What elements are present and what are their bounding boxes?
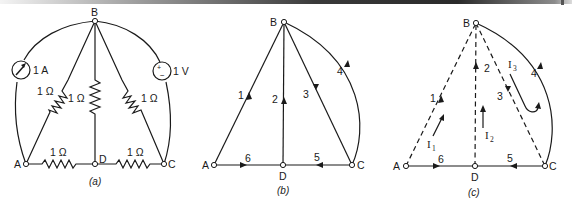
branch-4 [284,22,360,165]
circuit-figure: 1 A + − 1 V 1 Ω 1 Ω 1 Ω 1 Ω 1 Ω B A D C [0,0,572,205]
node-a [23,161,28,166]
branch-4-label: 4 [337,65,343,77]
node-a [403,163,408,168]
voltmeter-label: 1 V [173,65,189,77]
resistor-ad-label: 1 Ω [50,146,67,158]
node-c-label: C [549,160,557,172]
resistor-ab-label: 1 Ω [37,85,54,97]
branch-5-label: 5 [507,152,513,164]
resistor-dc-label: 1 Ω [127,146,144,158]
panel-c-graph: 1 2 3 4 5 6 I 1 I 2 I 3 B [393,17,557,198]
branch-1-label: 1 [238,89,244,101]
branch-3-label: 3 [303,88,309,100]
arrow-1-icon [438,95,444,103]
branch-2 [283,22,284,165]
branch-2-label: 2 [484,62,490,74]
ammeter-label: 1 A [33,64,48,76]
node-d [92,161,97,166]
node-a-label: A [202,159,209,171]
loop-current-i2: I 2 [480,105,494,144]
arrow-4-icon [344,60,350,67]
outer-wire-left-top [24,21,95,60]
branch-4-label: 4 [531,67,537,79]
node-b [281,19,286,24]
wire-a-d [26,160,95,168]
branch-5-label: 5 [314,151,320,163]
svg-text:I: I [485,129,489,141]
node-d-label: D [99,153,107,165]
node-c [349,162,354,167]
branch-4 [476,23,552,166]
node-b [92,18,97,23]
caption-b: (b) [277,185,289,196]
arrow-2-icon [473,62,479,69]
arrow-4-icon [537,62,543,69]
node-b-label: B [270,16,277,28]
node-a [211,162,216,167]
loop-current-i1: I 1 [427,114,444,153]
node-d-label: D [279,170,287,182]
arrow-2-icon [281,97,287,104]
outer-wire-left [15,82,26,164]
node-a-label: A [393,160,400,172]
node-c-label: C [357,159,365,171]
branch-1 [406,23,476,166]
resistor-bc-label: 1 Ω [141,92,158,104]
svg-text:1: 1 [432,144,436,153]
branch-2-label: 2 [272,93,278,105]
loop-i3-arrow-icon [535,102,541,109]
panel-b-graph: 1 2 3 4 5 6 B A D C (b) [202,16,365,196]
svg-text:2: 2 [490,135,494,144]
node-c-label: C [168,158,176,170]
ammeter [12,61,30,79]
branch-3-label: 3 [497,90,503,102]
caption-a: (a) [89,176,101,187]
svg-text:I: I [427,138,431,150]
panel-a-circuit: 1 A + − 1 V 1 Ω 1 Ω 1 Ω 1 Ω 1 Ω B A D C [12,6,189,187]
branch-6-label: 6 [438,153,444,165]
node-c [542,163,547,168]
outer-wire-right [164,82,170,164]
voltmeter: + − [153,62,171,80]
voltmeter-plus: + [157,64,161,71]
loop-i2-arrow-icon [480,105,486,112]
node-c [161,161,166,166]
arrow-3-icon [505,86,511,92]
voltmeter-minus: − [160,71,165,80]
svg-text:3: 3 [513,64,517,73]
node-b-label: B [91,6,98,18]
node-d [472,163,477,168]
node-a-label: A [14,158,21,170]
wire-b-d [90,21,100,164]
arrow-1-icon [246,92,252,100]
caption-c: (c) [468,187,480,198]
node-d [280,162,285,167]
resistor-bd-label: 1 Ω [68,92,85,104]
node-d-label: D [471,171,479,183]
loop-i1-arrow-icon [439,114,444,121]
node-b [473,20,478,25]
branch-6-label: 6 [245,152,251,164]
node-b-label: B [463,17,470,29]
branch-1-label: 1 [430,92,436,104]
arrow-3-icon [313,84,319,90]
branch-2 [475,23,476,166]
svg-text:I: I [508,58,512,70]
